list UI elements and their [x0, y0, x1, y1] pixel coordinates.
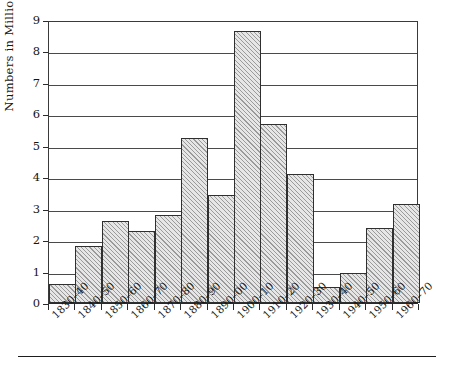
plot-area	[48, 21, 418, 304]
y-tick-label: 1	[6, 267, 40, 278]
x-tick-mark	[365, 304, 366, 310]
x-tick-mark	[101, 304, 102, 310]
histogram-figure: Numbers in Millions 0123456789 1830–4018…	[0, 0, 450, 372]
x-tick-mark	[48, 304, 49, 310]
y-tick-label: 4	[6, 172, 40, 183]
y-tick-label: 3	[6, 204, 40, 215]
x-tick-mark	[74, 304, 75, 310]
y-tick-label: 5	[6, 141, 40, 152]
bar	[234, 31, 261, 303]
x-tick-mark	[127, 304, 128, 310]
x-tick-mark	[207, 304, 208, 310]
y-axis-title: Numbers in Millions	[2, 0, 18, 124]
x-tick-mark	[259, 304, 260, 310]
y-tick-label: 2	[6, 235, 40, 246]
x-tick-mark	[154, 304, 155, 310]
x-tick-mark	[392, 304, 393, 310]
footer-rule	[18, 356, 436, 357]
bar-series	[49, 22, 417, 303]
x-tick-mark	[418, 304, 419, 310]
bar	[181, 138, 208, 303]
x-tick-mark	[339, 304, 340, 310]
bar	[260, 124, 287, 303]
x-tick-mark	[286, 304, 287, 310]
x-tick-mark	[180, 304, 181, 310]
x-tick-mark	[312, 304, 313, 310]
x-tick-mark	[233, 304, 234, 310]
y-tick-label: 0	[6, 298, 40, 309]
